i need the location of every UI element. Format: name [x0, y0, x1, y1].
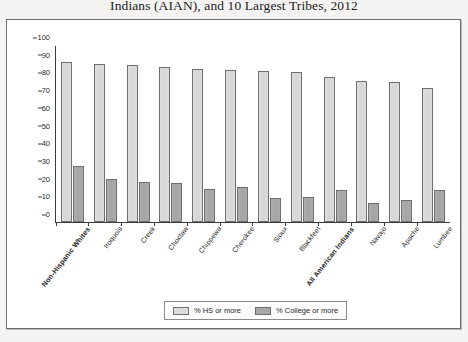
bar-hs [61, 62, 72, 222]
x-axis-labels: Non-Hispanic WhitesIroquoisCreekChoctawC… [56, 225, 451, 295]
bar-college [171, 183, 182, 222]
y-axis-tick: 50 [42, 121, 55, 130]
x-axis-label: Choctaw [167, 225, 190, 251]
x-axis-label: Creek [139, 225, 156, 244]
bar-college [434, 190, 445, 222]
bar-college [139, 182, 150, 222]
y-axis-tick: 70 [42, 86, 55, 95]
bar-group [319, 46, 352, 222]
legend-item-hs: % HS or more [173, 306, 241, 315]
bar-group [154, 46, 187, 222]
y-axis-tick: 10 [42, 192, 55, 201]
bar-college [270, 198, 281, 222]
bar-group [253, 46, 286, 222]
bar-college [401, 200, 412, 222]
bar-hs [159, 67, 170, 222]
bar-hs [192, 69, 203, 222]
bar-group [122, 46, 155, 222]
y-axis-tick: 80 [42, 68, 55, 77]
chart-frame: 0102030405060708090100 Non-Hispanic Whit… [6, 19, 461, 329]
bar-college [204, 189, 215, 222]
bar-hs [389, 82, 400, 222]
bar-group [220, 46, 253, 222]
x-axis-label: Iroquois [103, 225, 124, 250]
bar-group [187, 46, 220, 222]
y-axis-tick: 40 [42, 139, 55, 148]
bar-college [237, 187, 248, 222]
bar-college [336, 190, 347, 222]
x-axis-label: Chippewa [197, 225, 222, 254]
y-axis-tick: 30 [42, 156, 55, 165]
bar-hs [225, 70, 236, 222]
bar-series-container [56, 46, 450, 222]
bar-college [368, 203, 379, 222]
plot-area: 0102030405060708090100 [55, 46, 450, 223]
x-axis-label: Blackfeet [298, 225, 322, 253]
legend-label-college: % College or more [276, 306, 338, 315]
bar-group [417, 46, 450, 222]
y-axis-tick: 0 [46, 210, 55, 219]
x-axis-label: Apache [400, 225, 421, 248]
x-axis-label: Sioux [272, 225, 289, 244]
x-axis-label: Cherokee [231, 225, 256, 254]
bar-hs [324, 77, 335, 222]
bar-group [286, 46, 319, 222]
bar-hs [258, 71, 269, 222]
legend-label-hs: % HS or more [194, 306, 241, 315]
bar-hs [127, 65, 138, 222]
chart-legend: % HS or more % College or more [164, 301, 347, 320]
x-axis-label: Navajo [368, 225, 387, 247]
legend-swatch-hs [173, 307, 189, 315]
bar-hs [356, 81, 367, 222]
x-axis-label: Lumbee [432, 225, 453, 250]
bar-group [351, 46, 384, 222]
legend-swatch-college [255, 307, 271, 315]
bar-hs [94, 64, 105, 222]
y-axis-tick: 20 [42, 174, 55, 183]
bar-college [106, 179, 117, 222]
y-axis-tick: 90 [42, 50, 55, 59]
bar-group [56, 46, 89, 222]
bar-group [384, 46, 417, 222]
page-background: Indians (AIAN), and 10 Largest Tribes, 2… [0, 0, 468, 342]
bar-college [303, 197, 314, 222]
bar-college [73, 166, 84, 222]
y-axis-tick: 60 [42, 103, 55, 112]
chart-title: Indians (AIAN), and 10 Largest Tribes, 2… [0, 0, 468, 14]
legend-item-college: % College or more [255, 306, 338, 315]
x-axis-label: Non-Hispanic Whites [40, 225, 93, 289]
bar-hs [422, 88, 433, 222]
bar-hs [291, 72, 302, 222]
bar-group [89, 46, 122, 222]
y-axis-tick: 100 [37, 33, 55, 42]
